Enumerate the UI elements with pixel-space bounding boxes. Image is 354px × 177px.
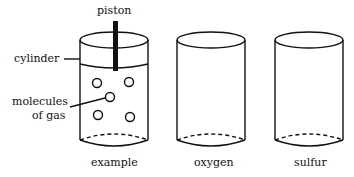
- caption-example: example: [91, 157, 138, 169]
- caption-oxygen: oxygen: [194, 157, 234, 169]
- diagram-canvas: [0, 0, 354, 177]
- cylinder-sulfur: [275, 32, 343, 146]
- caption-sulfur: sulfur: [294, 157, 327, 169]
- cylinder-label: cylinder: [14, 53, 59, 65]
- molecules-label-line1: molecules: [12, 96, 68, 108]
- cylinder-example: [64, 32, 148, 146]
- molecules-leader-line: [70, 98, 105, 107]
- molecules-label-line2: of gas: [32, 110, 65, 122]
- cylinder-oxygen: [177, 32, 245, 146]
- piston-rod: [113, 21, 118, 71]
- piston-label: piston: [97, 5, 131, 17]
